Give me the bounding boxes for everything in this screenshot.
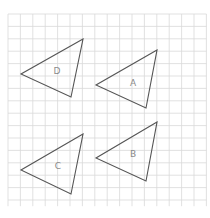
triangles-layer xyxy=(21,39,157,194)
triangle-label-d: D xyxy=(54,66,61,76)
labels-layer: D A C B xyxy=(54,66,137,171)
grid-paper xyxy=(8,14,206,206)
triangle-grid-diagram: D A C B xyxy=(0,0,210,218)
triangle-c xyxy=(21,134,83,194)
triangle-label-b: B xyxy=(130,149,136,159)
triangle-label-c: C xyxy=(55,161,61,171)
triangle-b xyxy=(96,122,157,181)
triangle-label-a: A xyxy=(130,78,137,88)
triangle-a xyxy=(96,50,157,108)
